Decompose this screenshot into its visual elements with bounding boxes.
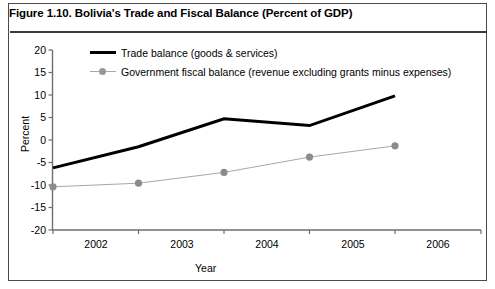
- data-point-fiscal-2002: [49, 183, 56, 190]
- axes-group: [49, 50, 482, 234]
- data-point-fiscal-2003: [135, 180, 142, 187]
- chart-plot-area: Trade balance (goods & services) Governm…: [0, 0, 495, 289]
- data-point-fiscal-2005: [306, 154, 313, 161]
- data-point-fiscal-2004: [220, 169, 227, 176]
- series-line-fiscal-balance: [53, 146, 395, 187]
- series-markers-fiscal-balance: [49, 142, 398, 190]
- data-point-fiscal-2006: [391, 142, 398, 149]
- chart-canvas: [0, 0, 495, 289]
- series-line-trade-balance: [53, 96, 395, 168]
